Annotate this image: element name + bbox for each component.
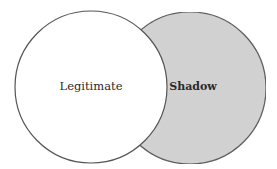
venn-diagram: Legitimate Shadow: [0, 0, 277, 169]
legitimate-label: Legitimate: [60, 79, 123, 93]
shadow-label: Shadow: [169, 80, 217, 93]
